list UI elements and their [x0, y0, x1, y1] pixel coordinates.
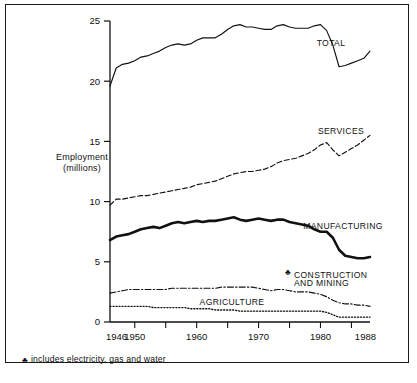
series-label-agriculture: AGRICULTURE: [200, 297, 265, 307]
x-tick-label: 1950: [124, 331, 145, 342]
y-tick-label: 10: [89, 196, 100, 207]
series-label-construction-line2: AND MINING: [294, 278, 349, 288]
y-tick-label: 15: [89, 136, 100, 147]
series-label-services: SERVICES: [318, 126, 364, 136]
chart-plot-area: 0510152025 194619501960197019801988 Empl…: [0, 0, 417, 383]
x-axis-ticks: 194619501960197019801988: [106, 322, 376, 342]
x-tick-label: 1960: [186, 331, 207, 342]
x-tick-label: 1980: [310, 331, 331, 342]
y-tick-label: 20: [89, 76, 100, 87]
footnote-text: includes electricity, gas and water: [31, 354, 166, 364]
y-axis-title-line2: (millions): [63, 163, 101, 173]
employment-chart-figure: 0510152025 194619501960197019801988 Empl…: [0, 0, 417, 383]
series-line-total: [110, 25, 370, 86]
y-tick-label: 0: [95, 316, 100, 327]
series-label-total: TOTAL: [317, 38, 346, 48]
series-line-services: [110, 135, 370, 205]
series-line-agriculture: [110, 306, 370, 317]
y-axis-title-line1: Employment: [56, 152, 108, 162]
footnote-dagger-icon: ♣: [22, 355, 28, 365]
x-tick-label: 1988: [355, 331, 376, 342]
y-tick-label: 5: [95, 256, 100, 267]
series-label-manufacturing: MANUFACTURING: [303, 221, 383, 231]
construction-dagger-icon: ♣: [285, 267, 291, 277]
y-tick-label: 25: [89, 15, 100, 26]
x-tick-label: 1970: [248, 331, 269, 342]
